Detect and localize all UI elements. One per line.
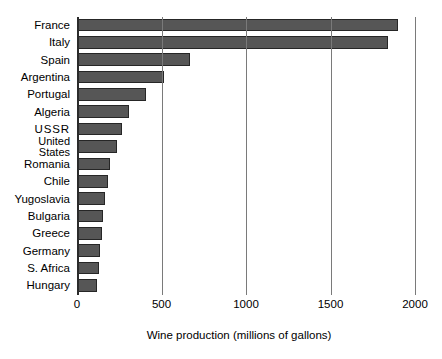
category-label: UnitedStates [0,139,74,156]
category-label: Portugal [0,87,74,104]
bar [77,53,190,66]
category-label: Germany [0,243,74,260]
x-tick-label: 1000 [233,298,259,310]
category-label: France [0,17,74,34]
bar [77,88,146,101]
bar [77,244,100,257]
bar [77,105,129,118]
category-label: Greece [0,226,74,243]
bar [77,19,398,32]
bar [77,140,117,153]
x-tick-label: 1500 [318,298,344,310]
category-label: Romania [0,156,74,173]
category-label: Yugoslavia [0,191,74,208]
bar [77,158,110,171]
wine-production-bar-chart: FranceItalySpainArgentinaPortugalAlgeria… [0,0,442,359]
category-label: Spain [0,52,74,69]
gridline [162,17,163,295]
bar [77,123,122,136]
bar [77,279,97,292]
y-axis-line [77,17,79,295]
bar [77,262,99,275]
plot-area [77,17,415,295]
bar [77,210,103,223]
x-axis-title: Wine production (millions of gallons) [0,329,442,341]
bar [77,192,105,205]
bar [77,175,108,188]
bar [77,227,102,240]
category-label: Argentina [0,69,74,86]
gridline [415,17,416,295]
category-label: S. Africa [0,260,74,277]
x-tick-label: 500 [152,298,171,310]
category-label: Hungary [0,278,74,295]
category-label: Italy [0,34,74,51]
gridline [246,17,247,295]
category-label: Bulgaria [0,208,74,225]
gridline [331,17,332,295]
bar [77,71,164,84]
category-axis-labels: FranceItalySpainArgentinaPortugalAlgeria… [0,17,74,295]
category-label: Chile [0,173,74,190]
x-axis-title-text: Wine production (millions of gallons) [147,329,332,341]
bar [77,36,388,49]
x-tick-label: 0 [74,298,80,310]
x-tick-label: 2000 [402,298,428,310]
category-label: Algeria [0,104,74,121]
category-label-line: States [39,147,70,158]
